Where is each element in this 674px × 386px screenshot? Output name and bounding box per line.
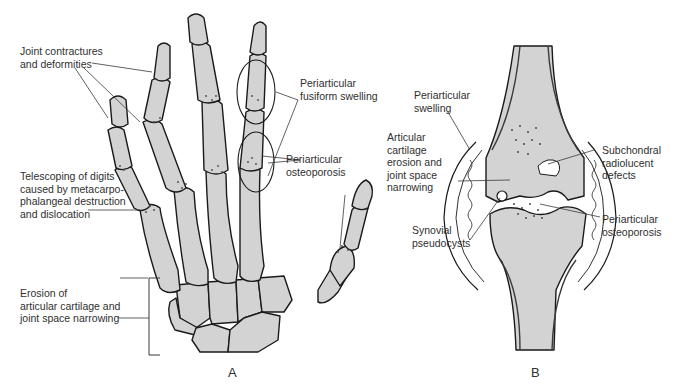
label-subchondral-radiolucent-defects: Subchondral radiolucent defects [602, 144, 661, 182]
label-line: joint space narrowing [20, 312, 120, 325]
label-line: Erosion of [20, 287, 120, 300]
label-line: phalangeal destruction [20, 195, 126, 208]
label-line: radiolucent [602, 157, 661, 170]
label-line: Periarticular [286, 153, 346, 166]
proximal-bone [486, 46, 584, 202]
label-line: narrowing [387, 181, 442, 194]
label-line: Telescoping of digits [20, 170, 126, 183]
label-line: caused by metacarpo- [20, 183, 126, 196]
distal-bone [490, 207, 586, 350]
label-line: defects [602, 169, 661, 182]
label-line: fusiform swelling [300, 90, 378, 103]
label-line: osteoporosis [602, 226, 662, 239]
label-line: articular cartilage and [20, 300, 120, 313]
label-line: Joint contractures [20, 45, 103, 58]
label-periarticular-osteoporosis-a: Periarticular osteoporosis [286, 153, 346, 178]
label-line: Synovial [412, 224, 470, 237]
label-erosion-of-articular-cartilage: Erosion of articular cartilage and joint… [20, 287, 120, 325]
label-joint-contractures: Joint contractures and deformities [20, 45, 103, 70]
label-line: erosion and [387, 156, 442, 169]
label-line: swelling [414, 102, 470, 115]
label-line: and deformities [20, 58, 103, 71]
label-line: Periarticular [300, 77, 378, 90]
label-periarticular-fusiform-swelling: Periarticular fusiform swelling [300, 77, 378, 102]
label-periarticular-swelling: Periarticular swelling [414, 89, 470, 114]
panel-letter-a: A [228, 365, 237, 380]
panel-letter-b: B [531, 365, 540, 380]
label-line: Subchondral [602, 144, 661, 157]
ring-finger [143, 43, 186, 192]
label-line: Periarticular [602, 213, 662, 226]
index-finger [240, 22, 266, 171]
label-line: and dislocation [20, 208, 126, 221]
label-line: pseudocysts [412, 237, 470, 250]
label-periarticular-osteoporosis-b: Periarticular osteoporosis [602, 213, 662, 238]
label-line: osteoporosis [286, 166, 346, 179]
middle-finger [188, 14, 228, 174]
carpal-bones [169, 276, 292, 352]
label-synovial-pseudocysts: Synovial pseudocysts [412, 224, 470, 249]
label-line: joint space [387, 169, 442, 182]
label-line: Articular [387, 131, 442, 144]
label-line: cartilage [387, 144, 442, 157]
label-line: Periarticular [414, 89, 470, 102]
thumb [330, 180, 372, 286]
label-articular-cartilage-erosion: Articular cartilage erosion and joint sp… [387, 131, 442, 194]
label-telescoping-of-digits: Telescoping of digits caused by metacarp… [20, 170, 126, 220]
